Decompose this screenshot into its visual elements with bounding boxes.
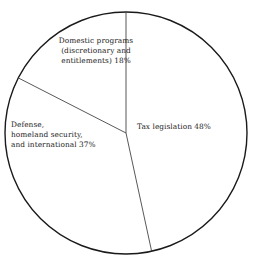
slice-label-domestic-programs: Domestic programs (discretionary and ent… xyxy=(48,36,144,67)
slice-label-defense: Defense, homeland security, and internat… xyxy=(11,120,131,151)
slice-label-tax-legislation: Tax legislation 48% xyxy=(137,122,247,132)
pie-chart-figure: Domestic programs (discretionary and ent… xyxy=(0,0,257,268)
